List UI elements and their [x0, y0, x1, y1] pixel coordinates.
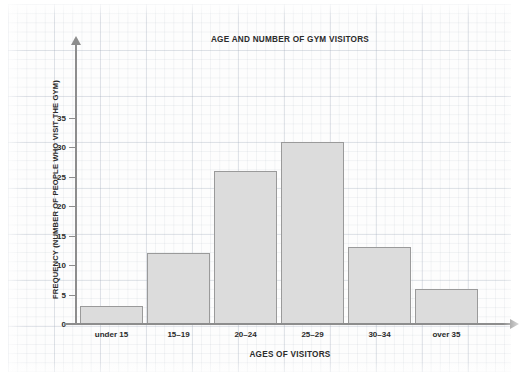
chart-title: AGE AND NUMBER OF GYM VISITORS	[130, 35, 450, 44]
bar-30-34	[348, 247, 411, 324]
y-tick-35	[69, 118, 75, 119]
x-tick-label-under-15: under 15	[80, 330, 143, 339]
x-axis-line	[64, 323, 512, 325]
y-tick-10	[69, 265, 75, 266]
y-axis-arrow-icon	[71, 36, 81, 45]
y-axis-line	[75, 44, 77, 325]
x-tick-label-30-34: 30–34	[348, 330, 411, 339]
y-tick-label-0: 0	[42, 320, 66, 329]
bar-20-24	[214, 171, 277, 324]
y-tick-20	[69, 206, 75, 207]
bar-25-29	[281, 142, 344, 324]
bar-under-15	[80, 306, 143, 324]
chart-page: AGE AND NUMBER OF GYM VISITORS 0 5 10 15…	[0, 0, 527, 385]
x-tick-label-25-29: 25–29	[281, 330, 344, 339]
bar-over-35	[415, 289, 478, 324]
y-tick-25	[69, 177, 75, 178]
x-axis-title: AGES OF VISITORS	[130, 350, 450, 359]
y-tick-15	[69, 236, 75, 237]
y-axis-title: FREQUENCY (NUMBER OF PEOPLE WHO VISIT TH…	[51, 75, 60, 305]
y-tick-5	[69, 295, 75, 296]
x-tick-label-15-19: 15–19	[147, 330, 210, 339]
y-tick-30	[69, 147, 75, 148]
histogram-plot: AGE AND NUMBER OF GYM VISITORS 0 5 10 15…	[0, 0, 527, 385]
x-axis-arrow-icon	[510, 319, 519, 329]
x-tick-label-20-24: 20–24	[214, 330, 277, 339]
bar-15-19	[147, 253, 210, 324]
x-tick-label-over-35: over 35	[415, 330, 478, 339]
